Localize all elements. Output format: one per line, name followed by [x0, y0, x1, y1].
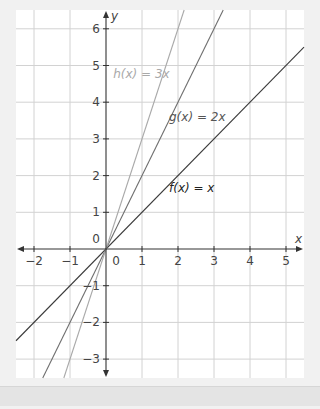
x-tick-label: 5: [282, 254, 290, 268]
y-tick-label: 5: [92, 59, 100, 73]
y-tick-label: 6: [92, 22, 100, 36]
y-tick-label: 4: [92, 95, 100, 109]
y-axis-label: y: [110, 9, 119, 23]
x-tick-label: −1: [61, 254, 79, 268]
bottom-strip: [0, 386, 320, 406]
y-tick-label: 1: [92, 205, 100, 219]
label-h: h(x) = 3x: [113, 67, 170, 81]
y-tick-label: −3: [82, 352, 100, 366]
x-tick-label: 2: [174, 254, 182, 268]
y-tick-label: 3: [92, 132, 100, 146]
x-tick-label: 4: [246, 254, 254, 268]
x-tick-label: −2: [25, 254, 43, 268]
y-tick-label: 2: [92, 169, 100, 183]
x-tick-label: 3: [210, 254, 218, 268]
x-tick-label: 1: [138, 254, 146, 268]
label-f: f(x) = x: [169, 181, 215, 195]
y-tick-label: −1: [82, 279, 100, 293]
x-tick-label: 0: [112, 254, 120, 268]
y-tick-label: −2: [82, 315, 100, 329]
label-g: g(x) = 2x: [169, 110, 226, 124]
y-tick-label: 0: [92, 232, 100, 246]
x-axis-label: x: [294, 232, 303, 246]
